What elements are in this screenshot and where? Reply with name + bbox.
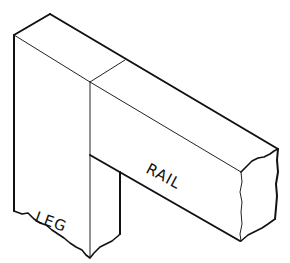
rail-top-back-edge: [50, 14, 278, 149]
leg-top-back-edge: [14, 14, 50, 35]
leg-label: LEG: [33, 208, 70, 236]
rail-end-bottom-break: [241, 219, 275, 241]
rail-top-front-edge: [90, 82, 241, 172]
joint-shoulder-line: [90, 60, 125, 82]
leg-top-front-edge: [14, 35, 90, 82]
rail-end-top-break: [241, 149, 278, 172]
leg-rail-joint-diagram: LEG RAIL: [0, 0, 290, 263]
rail: RAIL: [50, 14, 278, 241]
rail-end-right-edge: [275, 149, 278, 219]
leg: LEG: [14, 14, 120, 258]
rail-end-front-edge: [240, 172, 242, 241]
